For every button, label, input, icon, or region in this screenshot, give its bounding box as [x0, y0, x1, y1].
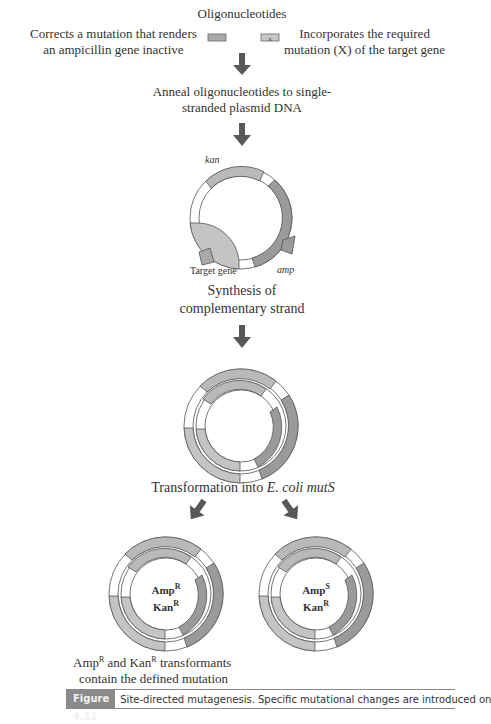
arrow-down-icon [233, 123, 251, 146]
oligo-right-label: Incorporates the required mutation (X) o… [284, 26, 445, 58]
figure-caption: Figure 4.11 Site-directed mutagenesis. S… [66, 689, 455, 709]
kan-label: kan [205, 152, 219, 168]
step1-label: Anneal oligonucleotides to single- stran… [153, 84, 332, 116]
oligo-right-line1: Incorporates the required [284, 26, 445, 42]
arrow-diagonal-right-icon [277, 495, 305, 524]
oligo-left-line2: an ampicillin gene inactive [30, 42, 197, 58]
left-plasmid-phenotype: AmpR KanR [151, 580, 180, 613]
plasmid-single-strand [190, 166, 295, 269]
step2-line2: complementary strand [180, 300, 305, 318]
arrow-diagonal-left-icon [183, 495, 211, 524]
title: Oligonucleotides [198, 6, 287, 22]
svg-text:x: x [269, 36, 272, 42]
figure-text: Site-directed mutagenesis. Specific muta… [115, 694, 491, 705]
oligo-amp-box [208, 34, 226, 41]
step1-line1: Anneal oligonucleotides to single- [153, 84, 332, 100]
step1-line2: stranded plasmid DNA [153, 100, 332, 116]
step2-line1: Synthesis of [180, 282, 305, 300]
amp-label: amp [277, 262, 294, 278]
figure-label: Figure 4.11 [67, 690, 115, 708]
step2-label: Synthesis of complementary strand [180, 282, 305, 318]
target-gene-label: Target gene [190, 263, 237, 279]
oligo-left-line1: Corrects a mutation that renders [30, 26, 197, 42]
step3-prefix: Transformation into [151, 480, 266, 495]
step3-italic: E. coli mutS [267, 480, 335, 495]
arrow-down-icon [233, 53, 251, 75]
result-label: AmpR and KanR transformants contain the … [73, 652, 231, 687]
step3-label: Transformation into E. coli mutS [151, 480, 334, 496]
right-plasmid-phenotype: AmpS KanR [302, 580, 330, 613]
plasmid-double-strand [184, 369, 298, 483]
arrow-down-icon [233, 325, 251, 348]
oligo-right-line2: mutation (X) of the target gene [284, 42, 445, 58]
oligo-left-label: Corrects a mutation that renders an ampi… [30, 26, 197, 58]
